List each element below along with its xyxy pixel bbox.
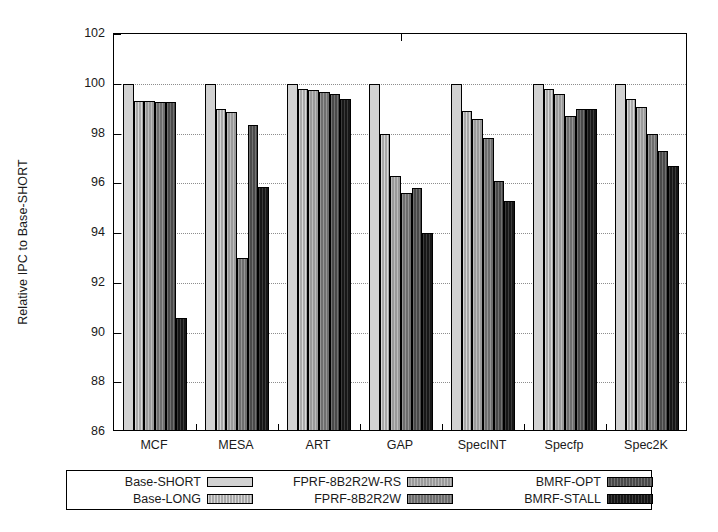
bar xyxy=(258,187,269,430)
legend-label: BMRF-OPT xyxy=(536,475,601,489)
bar-chart: Relative IPC to Base-SHORT 8688909294969… xyxy=(0,0,718,532)
legend-column: FPRF-8B2R2W-RSFPRF-8B2R2W xyxy=(267,471,453,509)
bar xyxy=(658,151,669,430)
bar xyxy=(565,116,576,430)
legend-swatch xyxy=(607,494,653,504)
legend-label: BMRF-STALL xyxy=(524,492,601,506)
legend-column: BMRF-OPTBMRF-STALL xyxy=(467,471,653,509)
bar xyxy=(176,318,187,430)
y-tick-label: 100 xyxy=(84,76,105,90)
bar xyxy=(586,109,597,430)
chart-legend: Base-SHORTBase-LONGFPRF-8B2R2W-RSFPRF-8B… xyxy=(66,470,652,510)
y-tick-mark xyxy=(114,84,121,85)
bar xyxy=(462,111,473,430)
x-tick-mark xyxy=(196,424,197,430)
bar xyxy=(472,119,483,430)
top-axis-tick xyxy=(401,34,402,41)
x-tick-mark xyxy=(442,424,443,430)
x-tick-label-specfp: Specfp xyxy=(545,438,584,452)
bar xyxy=(483,138,494,430)
bar xyxy=(330,94,341,430)
gridline xyxy=(114,84,686,85)
gridline xyxy=(114,134,686,135)
legend-entry: Base-SHORT xyxy=(67,473,253,490)
plot-area xyxy=(113,33,687,431)
legend-swatch xyxy=(207,477,253,487)
legend-label: FPRF-8B2R2W-RS xyxy=(293,475,401,489)
legend-swatch xyxy=(407,477,453,487)
y-tick-label: 88 xyxy=(91,374,105,388)
bar xyxy=(554,94,565,430)
bar xyxy=(533,84,544,430)
bar xyxy=(237,258,248,430)
bar xyxy=(205,84,216,430)
bar xyxy=(401,193,412,430)
bar xyxy=(340,99,351,430)
y-tick-label: 98 xyxy=(91,126,105,140)
bar xyxy=(615,84,626,430)
x-tick-mark xyxy=(524,424,525,430)
x-tick-label-gap: GAP xyxy=(387,438,413,452)
legend-entry: BMRF-STALL xyxy=(467,490,653,507)
bar xyxy=(144,101,155,430)
bar xyxy=(380,134,391,431)
legend-entry: Base-LONG xyxy=(67,490,253,507)
bar xyxy=(216,109,227,430)
y-tick-label: 102 xyxy=(84,26,105,40)
x-tick-mark xyxy=(360,424,361,430)
y-tick-mark xyxy=(114,382,121,383)
bar xyxy=(544,89,555,430)
y-tick-label: 96 xyxy=(91,175,105,189)
bar xyxy=(308,90,319,430)
y-tick-mark xyxy=(114,333,121,334)
bar xyxy=(287,84,298,430)
bar xyxy=(668,166,679,430)
y-tick-label: 86 xyxy=(91,424,105,438)
bar xyxy=(636,107,647,430)
x-tick-mark xyxy=(606,424,607,430)
legend-label: FPRF-8B2R2W xyxy=(314,492,401,506)
y-tick-label: 94 xyxy=(91,225,105,239)
bar xyxy=(647,134,658,431)
bar xyxy=(451,84,462,430)
bar xyxy=(123,84,134,430)
bar xyxy=(412,188,423,430)
legend-swatch xyxy=(607,477,653,487)
bar xyxy=(369,84,380,430)
y-tick-mark xyxy=(114,134,121,135)
y-tick-label: 90 xyxy=(91,325,105,339)
bar xyxy=(504,201,515,430)
y-tick-mark xyxy=(114,283,121,284)
x-tick-label-mesa: MESA xyxy=(218,438,253,452)
y-axis-title: Relative IPC to Base-SHORT xyxy=(16,122,30,362)
legend-swatch xyxy=(407,494,453,504)
y-tick-mark xyxy=(114,34,121,35)
legend-swatch xyxy=(207,494,253,504)
bar xyxy=(319,92,330,430)
bar xyxy=(226,112,237,430)
bar xyxy=(576,109,587,430)
legend-entry: FPRF-8B2R2W xyxy=(267,490,453,507)
bar xyxy=(166,102,177,430)
x-tick-label-spec2k: Spec2K xyxy=(624,438,668,452)
x-tick-label-mcf: MCF xyxy=(140,438,167,452)
bar xyxy=(494,181,505,430)
bar xyxy=(298,89,309,430)
legend-entry: BMRF-OPT xyxy=(467,473,653,490)
legend-label: Base-LONG xyxy=(133,492,201,506)
x-tick-label-specint: SpecINT xyxy=(458,438,507,452)
y-tick-label: 92 xyxy=(91,275,105,289)
bar xyxy=(422,233,433,430)
bar xyxy=(626,99,637,430)
plot-inner xyxy=(114,34,686,430)
x-tick-mark xyxy=(278,424,279,430)
bar xyxy=(248,125,259,430)
bar xyxy=(155,102,166,430)
bar xyxy=(390,176,401,430)
y-tick-mark xyxy=(114,233,121,234)
x-tick-label-art: ART xyxy=(306,438,331,452)
legend-entry: FPRF-8B2R2W-RS xyxy=(267,473,453,490)
bar xyxy=(134,101,145,430)
legend-column: Base-SHORTBase-LONG xyxy=(67,471,253,509)
legend-label: Base-SHORT xyxy=(125,475,201,489)
